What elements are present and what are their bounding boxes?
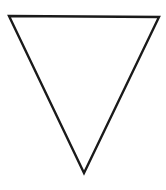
inverted-triangle-diagram <box>0 0 166 190</box>
diagram-canvas <box>0 0 166 190</box>
inverted-triangle-icon <box>9 16 159 173</box>
